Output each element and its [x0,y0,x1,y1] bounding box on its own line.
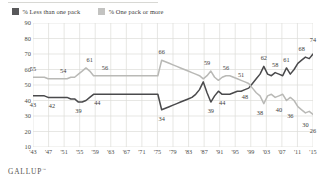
point-value-label: 30 [302,122,308,128]
x-axis-tick-label: '87 [200,149,207,155]
gallup-wordmark: GALLUP [8,167,42,176]
chart-legend: % Less than one pack % One pack or more [12,8,163,15]
x-axis-tick-label: '83 [185,149,192,155]
x-axis-tick-label: '99 [247,149,254,155]
y-axis-tick-label: 70 [25,51,31,57]
y-axis-tick-label: 20 [25,128,31,134]
point-value-label: 39 [208,108,214,114]
x-axis-tick-label: '11 [294,149,301,155]
point-value-label: 68 [298,46,304,52]
legend-item-one-pack-or-more: % One pack or more [98,8,163,15]
plot-area: 4342394434394448625861687455546156665956… [33,23,313,147]
top-divider [8,2,158,3]
x-axis-tick-label: '43 [29,149,36,155]
x-axis-tick-label: '55 [76,149,83,155]
x-axis-tick-label: '67 [123,149,130,155]
x-axis-tick-label: '79 [169,149,176,155]
legend-label: % Less than one pack [23,8,81,15]
x-axis-tick-label: '75 [154,149,161,155]
x-axis-tick-label: '51 [60,149,67,155]
y-axis-tick-label: 90 [25,20,31,26]
point-value-label: 51 [238,72,244,78]
x-axis-tick-label: '63 [107,149,114,155]
point-value-label: 39 [75,108,81,114]
x-axis: '43'47'51'55'59'63'67'71'75'79'83'87'91'… [33,149,313,161]
x-axis-tick-label: '59 [92,149,99,155]
legend-swatch-icon [98,8,105,15]
point-value-label: 43 [30,102,36,108]
x-axis-tick-label: '91 [216,149,223,155]
point-value-label: 56 [223,65,229,71]
legend-label: % One pack or more [109,8,164,15]
point-value-label: 54 [60,68,66,74]
y-axis-tick-label: 30 [25,113,31,119]
point-value-label: 26 [310,128,316,134]
point-value-label: 44 [94,100,100,106]
point-value-label: 42 [49,103,55,109]
point-value-label: 61 [87,57,93,63]
legend-swatch-icon [12,8,19,15]
x-axis-tick-label: '03 [263,149,270,155]
point-value-label: 38 [257,109,263,115]
point-value-label: 61 [283,57,289,63]
y-axis-tick-label: 50 [25,82,31,88]
point-value-label: 59 [204,60,210,66]
gallup-logo: GALLUP™ [8,167,46,176]
point-value-label: 55 [30,66,36,72]
x-axis-tick-label: '95 [232,149,239,155]
y-axis-tick-label: 80 [25,35,31,41]
x-axis-tick-label: '71 [138,149,145,155]
x-axis-tick-label: '47 [45,149,52,155]
point-value-label: 44 [219,100,225,106]
gallup-smoking-chart: % Less than one pack % One pack or more … [0,0,322,186]
point-value-label: 66 [158,49,164,55]
trademark-icon: ™ [42,168,46,172]
y-axis: 908070605040302010 [14,23,31,147]
point-value-label: 74 [310,37,316,43]
point-value-label: 58 [272,61,278,67]
x-axis-tick-label: '15 [309,149,316,155]
point-value-label: 34 [158,116,164,122]
point-value-labels: 4342394434394448625861687455546156665956… [33,23,313,147]
point-value-label: 36 [287,113,293,119]
point-value-label: 56 [102,65,108,71]
legend-item-less-than-one-pack: % Less than one pack [12,8,80,15]
x-axis-tick-label: '07 [278,149,285,155]
point-value-label: 62 [261,55,267,61]
point-value-label: 40 [276,106,282,112]
point-value-label: 48 [242,94,248,100]
